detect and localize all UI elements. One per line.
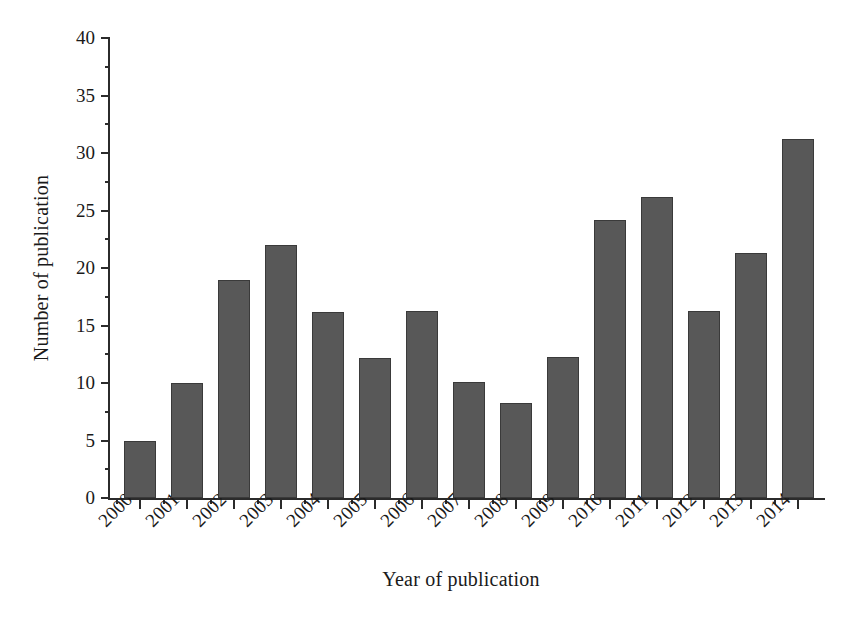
x-tick-mark [703, 498, 705, 509]
plot-area: 0510152025303540 20002001200220032004200… [110, 38, 825, 498]
x-tick-mark [116, 498, 118, 504]
y-tick-label: 5 [86, 428, 96, 454]
x-tick-mark [186, 498, 188, 509]
y-tick-label: 10 [76, 370, 95, 396]
x-axis-label: Year of publication [96, 568, 826, 591]
x-tick-mark [562, 498, 564, 509]
bar-2013 [735, 253, 767, 498]
y-tick-mark [101, 497, 110, 499]
x-tick-mark [280, 498, 282, 509]
y-tick-mark [105, 238, 110, 240]
y-tick-label: 20 [76, 255, 95, 281]
x-tick-mark [797, 498, 799, 509]
bar-2006 [406, 311, 438, 498]
y-tick-label: 30 [76, 140, 95, 166]
x-tick-mark [750, 498, 752, 509]
y-tick-mark [105, 296, 110, 298]
bar-2009 [547, 357, 579, 498]
bar-2002 [218, 280, 250, 499]
y-tick-mark [105, 66, 110, 68]
bar-2012 [688, 311, 720, 498]
y-axis-spine [108, 38, 110, 500]
y-tick-mark [105, 353, 110, 355]
bar-2010 [594, 220, 626, 498]
bar-2005 [359, 358, 391, 498]
bar-chart-figure: Number of publication Year of publicatio… [0, 0, 865, 619]
y-tick-label: 0 [86, 485, 96, 511]
y-tick-mark [101, 152, 110, 154]
bar-2007 [453, 382, 485, 498]
bar-2011 [641, 197, 673, 498]
y-tick-mark [105, 411, 110, 413]
y-axis-label: Number of publication [22, 38, 60, 498]
y-tick-mark [101, 37, 110, 39]
y-tick-mark [105, 123, 110, 125]
y-tick-label: 35 [76, 83, 95, 109]
y-tick-label: 15 [76, 313, 95, 339]
x-tick-mark [609, 498, 611, 509]
y-tick-mark [101, 210, 110, 212]
bar-2003 [265, 245, 297, 498]
y-tick-mark [101, 440, 110, 442]
bar-2014 [782, 139, 814, 498]
y-tick-mark [101, 95, 110, 97]
bar-2001 [171, 383, 203, 498]
x-tick-mark [374, 498, 376, 509]
x-tick-mark [327, 498, 329, 509]
bar-2008 [500, 403, 532, 498]
y-tick-mark [105, 468, 110, 470]
x-tick-mark [515, 498, 517, 509]
x-tick-mark [468, 498, 470, 509]
y-tick-mark [101, 325, 110, 327]
y-tick-label: 25 [76, 198, 95, 224]
x-tick-mark [139, 498, 141, 509]
x-tick-mark [656, 498, 658, 509]
y-tick-mark [101, 267, 110, 269]
bar-2004 [312, 312, 344, 498]
y-tick-mark [105, 181, 110, 183]
bar-2000 [124, 441, 156, 499]
x-tick-mark [233, 498, 235, 509]
y-tick-mark [101, 382, 110, 384]
x-tick-mark [421, 498, 423, 509]
y-tick-label: 40 [76, 25, 95, 51]
